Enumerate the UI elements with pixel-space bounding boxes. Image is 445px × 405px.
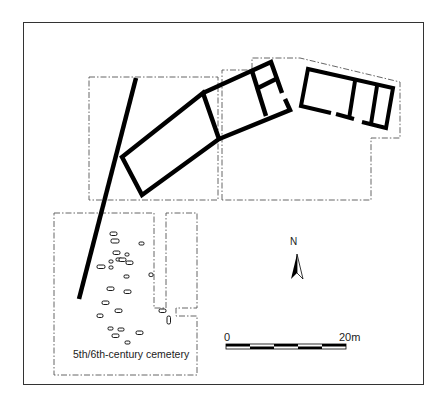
grave [109,266,113,269]
grave [125,253,129,256]
grave [124,290,131,294]
site-plan [0,0,445,405]
grave [109,260,113,263]
grave [97,314,103,318]
grave [139,242,144,245]
grave [159,309,166,313]
grave [136,331,143,335]
graves [97,232,171,344]
building-3-outline [301,69,393,128]
scale-start-label: 0 [224,331,230,343]
grave [126,261,133,265]
building-3-partition-2 [371,86,377,124]
building-2-room-wall [258,79,276,88]
building-2-partition [252,71,266,116]
cemetery-label: 5th/6th-century cemetery [73,348,189,360]
grave [108,327,113,330]
building-2-south-wall [219,99,290,139]
building-3 [301,69,393,128]
grave [119,258,126,262]
grave [112,334,119,338]
grave [113,251,120,255]
grave [107,287,114,291]
north-label: N [290,236,297,247]
building-1 [122,93,219,195]
building-2-north-wall [203,62,282,93]
north-arrow-icon [291,254,303,279]
grave [111,239,119,243]
building-3-partition-1 [349,81,355,119]
grave [110,232,117,236]
scale-bar [226,344,346,349]
grave [167,316,171,324]
grave [118,328,124,331]
grave [149,273,153,277]
grave [97,265,105,269]
grave [102,301,109,305]
grave [115,309,122,313]
grave [124,275,129,278]
scale-end-label: 20m [339,331,360,343]
excavation-outlines [54,58,400,375]
grave [125,341,130,344]
boundary-wall [79,78,136,299]
